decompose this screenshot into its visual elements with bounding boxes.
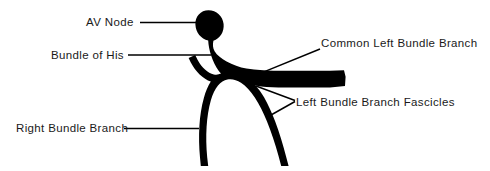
label-common-left-bundle-branch: Common Left Bundle Branch bbox=[321, 37, 477, 49]
figure-artwork bbox=[0, 0, 490, 171]
label-av-node: AV Node bbox=[86, 16, 134, 28]
label-left-bundle-branch-fascicles: Left Bundle Branch Fascicles bbox=[296, 96, 455, 108]
label-bundle-of-his: Bundle of His bbox=[51, 49, 124, 61]
label-right-bundle-branch: Right Bundle Branch bbox=[16, 122, 128, 134]
conduction-system-figure: AV Node Bundle of His Right Bundle Branc… bbox=[0, 0, 490, 171]
